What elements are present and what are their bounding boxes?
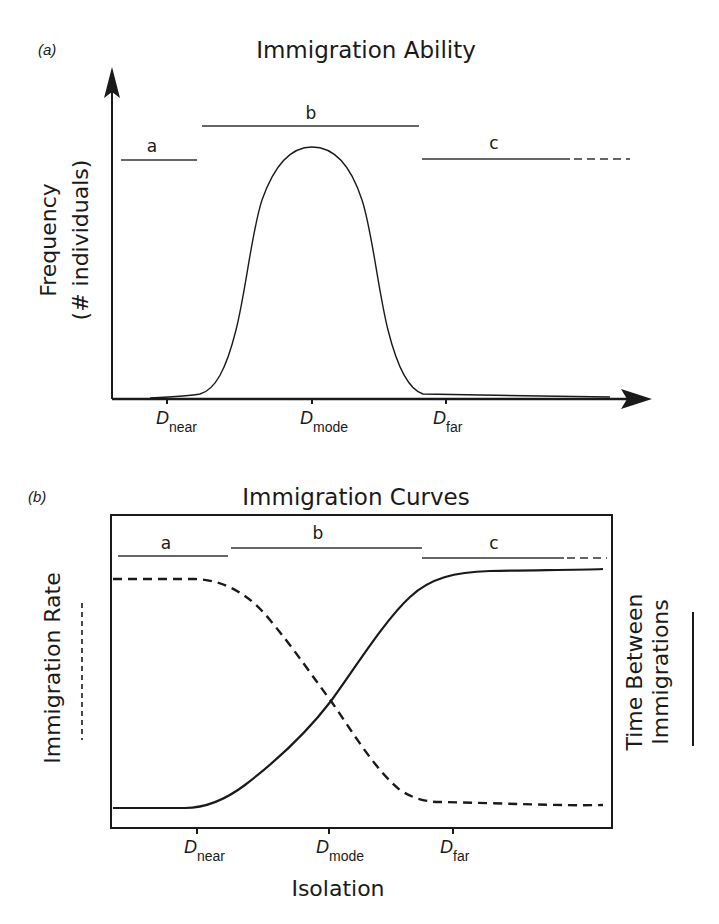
panel-a: (a) Immigration Ability Frequency (# ind… — [36, 37, 652, 435]
segment-b-label: b — [313, 523, 324, 543]
segment-a-label: a — [147, 136, 157, 156]
plot-frame — [111, 515, 612, 828]
segment-c-label: c — [489, 133, 498, 153]
segment-b-label: b — [306, 103, 317, 123]
figure: (a) Immigration Ability Frequency (# ind… — [0, 0, 719, 924]
tick-label-near: Dnear — [184, 837, 225, 864]
tick-label-far: Dfar — [440, 837, 470, 864]
panel-a-title: Immigration Ability — [256, 37, 476, 63]
segment-c-label: c — [489, 533, 498, 553]
panel-b-tag: (b) — [28, 488, 46, 505]
right-y-axis-label-line2: Immigrations — [648, 599, 673, 745]
tick-label-far: Dfar — [433, 408, 463, 435]
tick-label-near: Dnear — [156, 408, 197, 435]
left-y-axis-label: Immigration Rate — [40, 572, 65, 764]
x-axis-label: Isolation — [291, 876, 384, 901]
panel-b: (b) Immigration Curves a b c Dnear Dmode… — [28, 484, 693, 901]
panel-b-title: Immigration Curves — [242, 484, 469, 510]
panel-a-tag: (a) — [38, 41, 56, 58]
tick-label-mode: Dmode — [316, 837, 364, 864]
right-y-axis-label-line1: Time Between — [622, 593, 647, 751]
immigration-rate-curve — [113, 579, 603, 805]
panel-a-ylabel-line1: Frequency — [36, 183, 61, 297]
segment-a-label: a — [161, 533, 171, 553]
tick-label-mode: Dmode — [300, 408, 348, 435]
panel-a-ylabel-line2: (# individuals) — [68, 160, 93, 321]
frequency-curve — [150, 147, 610, 398]
time-between-immigrations-curve — [113, 569, 603, 808]
